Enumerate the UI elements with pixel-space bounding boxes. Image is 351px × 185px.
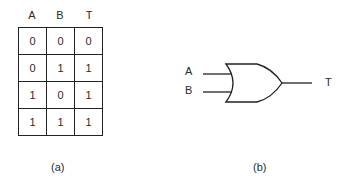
- caption-b: (b): [253, 161, 266, 173]
- output-t-label: T: [325, 76, 332, 88]
- input-b-label: B: [185, 84, 192, 96]
- input-a-label: A: [185, 65, 192, 77]
- or-gate-icon: [0, 0, 351, 185]
